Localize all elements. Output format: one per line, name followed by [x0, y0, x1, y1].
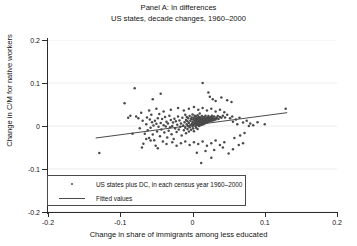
x-tick: [48, 212, 49, 217]
x-tick: [120, 212, 121, 217]
x-tick: [337, 212, 338, 217]
y-tick: [42, 83, 47, 84]
x-tick: [193, 212, 194, 217]
y-tick-label: 0.1: [0, 80, 40, 87]
y-tick: [42, 40, 47, 41]
x-tick-label: -0.1: [114, 219, 126, 226]
legend-marker-dot: [48, 183, 96, 185]
y-tick-label: -0.1: [0, 166, 40, 173]
x-tick-label: -0.2: [42, 219, 54, 226]
y-tick: [42, 169, 47, 170]
x-axis-title: Change in share of immigrants among less…: [0, 230, 357, 239]
legend-entry-fitted: Fitted values: [48, 191, 245, 205]
x-tick-label: 0: [191, 219, 195, 226]
figure-panel-a: Panel A: In differences US states, decad…: [0, 0, 357, 246]
legend-label-scatter: US states plus DC, in each census year 1…: [96, 181, 242, 188]
y-axis-title: Change in C/M for native workers: [5, 6, 14, 176]
chart-subtitle: US states, decade changes, 1960–2000: [0, 13, 357, 24]
y-tick-label: 0: [0, 123, 40, 130]
y-tick: [42, 126, 47, 127]
legend-entry-scatter: US states plus DC, in each census year 1…: [48, 177, 245, 191]
title-block: Panel A: In differences US states, decad…: [0, 2, 357, 24]
x-tick: [265, 212, 266, 217]
y-tick: [42, 212, 47, 213]
legend: US states plus DC, in each census year 1…: [47, 175, 246, 206]
x-tick-label: 0.2: [332, 219, 342, 226]
y-tick-label: -0.2: [0, 209, 40, 216]
legend-marker-line: [48, 198, 96, 199]
x-tick-label: 0.1: [260, 219, 270, 226]
legend-label-fitted: Fitted values: [96, 195, 132, 202]
chart-title: Panel A: In differences: [0, 2, 357, 13]
y-tick-label: 0.2: [0, 37, 40, 44]
